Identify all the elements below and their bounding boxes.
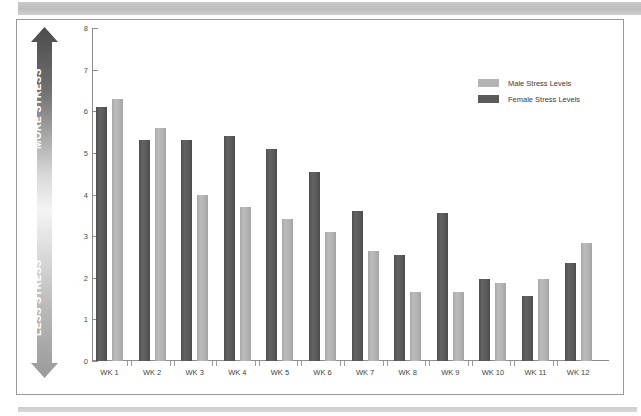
x-axis-minor-tick bbox=[301, 361, 302, 366]
bar-male bbox=[538, 279, 549, 361]
x-axis-minor-tick bbox=[514, 361, 515, 366]
legend-item: Female Stress Levels bbox=[478, 94, 580, 104]
bar-male bbox=[325, 232, 336, 361]
x-axis-minor-tick bbox=[472, 361, 473, 366]
x-axis-label: WK 11 bbox=[516, 368, 556, 377]
x-axis-minor-tick bbox=[344, 361, 345, 366]
x-axis-label: WK 7 bbox=[345, 368, 385, 377]
x-axis-label: WK 3 bbox=[175, 368, 215, 377]
bar-group bbox=[309, 28, 337, 361]
more-stress-text: MORE STRESS bbox=[31, 49, 43, 169]
bar-female bbox=[394, 255, 405, 361]
x-axis-minor-tick bbox=[255, 361, 256, 366]
y-axis-tick-label: 0 bbox=[73, 357, 88, 366]
bar-female bbox=[309, 172, 320, 361]
bar-male bbox=[495, 283, 506, 361]
bar-female bbox=[224, 136, 235, 361]
legend-swatch-female bbox=[478, 95, 499, 103]
y-axis-tick-label: 4 bbox=[73, 191, 88, 200]
bar-male bbox=[581, 243, 592, 361]
bar-female bbox=[266, 149, 277, 361]
x-axis-minor-tick bbox=[216, 361, 217, 366]
less-stress-text: LESS STRESS bbox=[31, 238, 43, 358]
x-axis-label: WK 6 bbox=[303, 368, 343, 377]
x-axis-minor-tick bbox=[429, 361, 430, 366]
bar-male bbox=[197, 195, 208, 362]
bar-female bbox=[181, 140, 192, 361]
x-axis-minor-tick bbox=[259, 361, 260, 366]
x-axis-label: WK 9 bbox=[430, 368, 470, 377]
x-axis-label: WK 10 bbox=[473, 368, 513, 377]
x-axis-minor-tick bbox=[340, 361, 341, 366]
more-stress-label: MORE STRESS bbox=[31, 49, 58, 169]
bar-group bbox=[139, 28, 167, 361]
bar-female bbox=[352, 211, 363, 361]
x-axis-minor-tick bbox=[127, 361, 128, 366]
bar-group bbox=[96, 28, 124, 361]
x-axis-label: WK 4 bbox=[217, 368, 257, 377]
x-axis-minor-tick bbox=[297, 361, 298, 366]
bar-female bbox=[565, 263, 576, 361]
x-axis-label: WK 8 bbox=[388, 368, 428, 377]
x-axis-minor-tick bbox=[468, 361, 469, 366]
bar-female bbox=[139, 140, 150, 361]
bar-group bbox=[266, 28, 294, 361]
less-stress-label: LESS STRESS bbox=[31, 238, 58, 358]
x-axis-label: WK 12 bbox=[558, 368, 598, 377]
bar-group bbox=[181, 28, 209, 361]
legend-swatch-male bbox=[478, 79, 499, 87]
x-axis-minor-tick bbox=[510, 361, 511, 366]
legend-label: Male Stress Levels bbox=[508, 79, 571, 88]
bar-group bbox=[394, 28, 422, 361]
x-axis-label: WK 5 bbox=[260, 368, 300, 377]
y-axis-tick-label: 5 bbox=[73, 149, 88, 158]
y-axis-tick-label: 6 bbox=[73, 107, 88, 116]
y-axis-tick-label: 3 bbox=[73, 232, 88, 241]
bar-group bbox=[224, 28, 252, 361]
bar-female bbox=[522, 296, 533, 361]
chart-panel: MORE STRESS LESS STRESS 012345678 WK 1WK… bbox=[16, 19, 624, 395]
x-axis-minor-tick bbox=[212, 361, 213, 366]
legend-item: Male Stress Levels bbox=[478, 78, 580, 88]
bar-female bbox=[96, 107, 107, 361]
x-axis-minor-tick bbox=[557, 361, 558, 366]
x-axis-label: WK 1 bbox=[90, 368, 130, 377]
bar-female bbox=[437, 213, 448, 361]
y-axis-tick-label: 8 bbox=[73, 24, 88, 33]
bar-group bbox=[352, 28, 380, 361]
y-axis-tick-label: 7 bbox=[73, 66, 88, 75]
bar-male bbox=[155, 128, 166, 361]
chart-legend: Male Stress LevelsFemale Stress Levels bbox=[478, 78, 580, 110]
x-axis-label: WK 2 bbox=[132, 368, 172, 377]
stress-scale-arrow: MORE STRESS LESS STRESS bbox=[31, 27, 58, 378]
bar-male bbox=[368, 251, 379, 361]
bar-group bbox=[437, 28, 465, 361]
x-axis-minor-tick bbox=[383, 361, 384, 366]
legend-label: Female Stress Levels bbox=[508, 95, 580, 104]
y-axis-tick-label: 2 bbox=[73, 274, 88, 283]
x-axis-minor-tick bbox=[553, 361, 554, 366]
x-axis-minor-tick bbox=[387, 361, 388, 366]
x-axis-minor-tick bbox=[170, 361, 171, 366]
page-bottom-band bbox=[18, 407, 637, 412]
x-axis-minor-tick bbox=[425, 361, 426, 366]
y-axis-tick-label: 1 bbox=[73, 315, 88, 324]
bar-male bbox=[453, 292, 464, 362]
bar-female bbox=[479, 279, 490, 361]
bar-male bbox=[282, 219, 293, 361]
x-axis-minor-tick bbox=[174, 361, 175, 366]
x-axis-minor-tick bbox=[131, 361, 132, 366]
bar-male bbox=[410, 292, 421, 362]
page-top-band bbox=[18, 2, 641, 15]
bar-male bbox=[112, 99, 123, 361]
y-axis-tick bbox=[92, 361, 98, 362]
bar-male bbox=[240, 207, 251, 361]
